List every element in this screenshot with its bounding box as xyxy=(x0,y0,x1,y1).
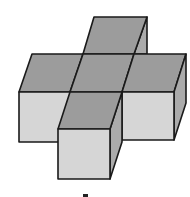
front-cube-front-face xyxy=(58,129,110,179)
front-cube-top-face xyxy=(58,92,122,129)
right-cube-front-face xyxy=(122,92,174,140)
cropped-label-mark xyxy=(83,194,88,197)
cube-cross-diagram xyxy=(0,0,190,197)
cross-solid-figure xyxy=(0,0,190,197)
